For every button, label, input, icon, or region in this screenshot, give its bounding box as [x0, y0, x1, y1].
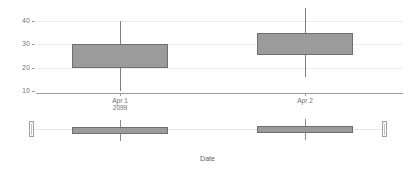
- boxplot-apr-1[interactable]: [72, 0, 168, 93]
- boxplot-chart: 40 30 20 10 Apr 1 2099 Apr 2: [0, 0, 415, 170]
- range-selector-right-handle[interactable]: [382, 121, 387, 137]
- x-tick-label-apr-2: Apr 2: [270, 97, 340, 105]
- x-axis-line: [36, 93, 403, 94]
- x-tick-mark-apr-2: [305, 93, 306, 96]
- box-rect-apr-2: [257, 33, 353, 55]
- y-tick-label-30: 30: [8, 40, 30, 48]
- x-axis-title: Date: [0, 154, 415, 163]
- range-selector-panel[interactable]: [0, 112, 415, 152]
- y-tick-mark-10: [32, 91, 35, 92]
- x-tick-sublabel-year: 2099: [85, 104, 155, 112]
- y-tick-mark-20: [32, 68, 35, 69]
- boxplot-apr-2[interactable]: [257, 0, 353, 93]
- y-tick-mark-40: [32, 21, 35, 22]
- box-rect-apr-1: [72, 44, 168, 68]
- y-tick-label-20: 20: [8, 64, 30, 72]
- mini-boxplot-apr-1[interactable]: [72, 118, 168, 142]
- y-tick-label-40: 40: [8, 17, 30, 25]
- range-selector-left-handle[interactable]: [29, 121, 34, 137]
- main-plot-panel: 40 30 20 10 Apr 1 2099 Apr 2: [0, 0, 415, 105]
- y-tick-label-10: 10: [8, 87, 30, 95]
- x-tick-mark-apr-1: [120, 93, 121, 96]
- mini-box-rect-apr-2: [257, 126, 353, 133]
- mini-box-rect-apr-1: [72, 127, 168, 134]
- y-tick-mark-30: [32, 44, 35, 45]
- mini-boxplot-apr-2[interactable]: [257, 118, 353, 142]
